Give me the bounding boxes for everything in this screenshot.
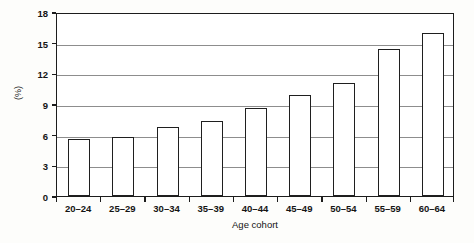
bar	[245, 108, 267, 196]
x-axis-tick-marks	[56, 197, 454, 202]
x-tick-label: 25–29	[109, 203, 135, 214]
x-tick-mark	[56, 197, 57, 202]
bar	[157, 127, 179, 197]
x-axis-label: Age cohort	[56, 219, 454, 230]
bar	[201, 121, 223, 196]
y-tick-label: 18	[24, 8, 48, 19]
x-axis-tick-labels: 20–2425–2930–3435–3940–4445–4950–5455–59…	[56, 203, 454, 217]
x-tick-label: 30–34	[153, 203, 179, 214]
x-tick-label: 50–54	[330, 203, 356, 214]
bar	[112, 137, 134, 196]
x-tick-mark	[366, 197, 367, 202]
x-tick-mark	[144, 197, 145, 202]
y-tick-label: 15	[24, 38, 48, 49]
y-tick-label: 3	[24, 161, 48, 172]
plot-area	[56, 13, 454, 197]
x-tick-label: 35–39	[198, 203, 224, 214]
x-tick-mark	[453, 197, 454, 202]
bar	[333, 83, 355, 196]
x-tick-mark	[233, 197, 234, 202]
x-tick-label: 40–44	[242, 203, 268, 214]
x-tick-label: 60–64	[419, 203, 445, 214]
x-tick-mark	[321, 197, 322, 202]
x-tick-mark	[100, 197, 101, 202]
bar	[68, 139, 90, 196]
bar-chart-figure: (%) 0369121518 20–2425–2930–3435–3940–44…	[0, 0, 474, 243]
x-tick-mark	[277, 197, 278, 202]
y-tick-label: 9	[24, 100, 48, 111]
y-axis-tick-labels: 0369121518	[24, 13, 48, 197]
x-tick-label: 20–24	[65, 203, 91, 214]
x-tick-label: 55–59	[374, 203, 400, 214]
x-tick-mark	[410, 197, 411, 202]
y-tick-label: 6	[24, 130, 48, 141]
bar	[422, 33, 444, 196]
y-axis-label: (%)	[13, 81, 23, 105]
bar	[289, 95, 311, 196]
bar-series	[57, 14, 453, 196]
y-tick-label: 12	[24, 69, 48, 80]
bar	[378, 49, 400, 196]
x-tick-label: 45–49	[286, 203, 312, 214]
y-tick-label: 0	[24, 192, 48, 203]
x-tick-mark	[189, 197, 190, 202]
